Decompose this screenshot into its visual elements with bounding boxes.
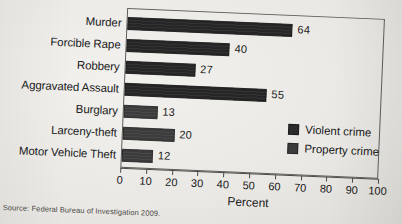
chart-figure: Murder Forcible Rape Robbery Aggravated …	[0, 0, 402, 224]
x-axis-tick-label: 40	[217, 178, 230, 191]
x-axis-tick	[326, 177, 327, 182]
category-label-aggravated-assault: Aggravated Assault	[0, 77, 119, 94]
legend-label-violent-crime: Violent crime	[305, 124, 372, 139]
category-label-murder: Murder	[0, 11, 122, 28]
bar-row: 55	[124, 83, 125, 96]
bar-row: 40	[126, 39, 127, 52]
x-axis-tick-label: 80	[320, 182, 333, 195]
bar-value-larceny-theft: 20	[179, 128, 192, 141]
category-axis-labels: Murder Forcible Rape Robbery Aggravated …	[0, 0, 123, 168]
x-axis-tick	[301, 175, 302, 180]
bar-value-aggravated-assault: 55	[271, 88, 284, 101]
x-axis-tick-label: 10	[139, 175, 152, 188]
x-axis-tick	[197, 171, 198, 176]
chart-legend: Violent crime Property crime	[287, 123, 380, 165]
x-axis-tick	[223, 172, 224, 177]
x-axis-tick	[120, 168, 121, 173]
x-axis-tick	[378, 179, 379, 184]
category-label-robbery: Robbery	[0, 55, 120, 72]
legend-swatch-icon	[287, 142, 298, 153]
x-axis-tick-label: 60	[268, 180, 281, 193]
bar-value-motor-vehicle-theft: 12	[158, 149, 171, 162]
bar-burglary[interactable]	[123, 105, 157, 119]
bar-value-burglary: 13	[162, 105, 175, 118]
bar-motor-vehicle-theft[interactable]	[122, 149, 153, 163]
x-axis-tick-label: 50	[242, 179, 255, 192]
bar-row: 13	[123, 105, 124, 118]
x-axis-tick	[146, 169, 147, 174]
x-axis-tick	[249, 173, 250, 178]
category-label-burglary: Burglary	[0, 99, 118, 116]
x-axis-tick-label: 90	[345, 183, 358, 196]
bar-value-robbery: 27	[200, 63, 213, 76]
legend-label-property-crime: Property crime	[304, 143, 379, 158]
legend-item-property-crime[interactable]: Property crime	[287, 142, 379, 158]
bar-larceny-theft[interactable]	[123, 127, 175, 142]
x-axis-tick	[275, 174, 276, 179]
x-axis-tick-label: 70	[294, 181, 307, 194]
x-axis-tick-label: 30	[191, 177, 204, 190]
bar-value-forcible-rape: 40	[234, 43, 247, 56]
category-label-forcible-rape: Forcible Rape	[0, 33, 121, 50]
bar-row: 20	[123, 127, 124, 140]
x-axis-tick-label: 20	[165, 176, 178, 189]
category-label-motor-vehicle-theft: Motor Vehicle Theft	[0, 143, 116, 160]
bar-row: 64	[127, 17, 128, 30]
x-axis-tick	[352, 178, 353, 183]
x-axis-tick-label: 100	[368, 184, 387, 197]
legend-swatch-icon	[288, 123, 299, 134]
bar-value-murder: 64	[297, 23, 310, 36]
x-axis-tick	[172, 170, 173, 175]
x-axis-tick-label: 0	[117, 174, 124, 186]
category-label-larceny-theft: Larceny-theft	[0, 121, 117, 138]
legend-item-violent-crime[interactable]: Violent crime	[288, 123, 380, 139]
bar-row: 27	[125, 61, 126, 74]
bar-row: 12	[122, 149, 123, 162]
